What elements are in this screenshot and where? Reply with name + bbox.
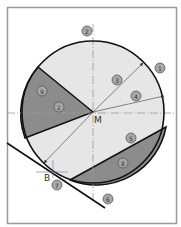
- badge-4: 4: [131, 91, 141, 101]
- point-label-m: M: [94, 115, 102, 125]
- badge-2-top: 2: [82, 26, 92, 36]
- badge-3: 3: [112, 75, 122, 85]
- svg-text:1: 1: [158, 65, 162, 72]
- badge-8: 8: [118, 158, 128, 168]
- svg-text:2: 2: [85, 28, 89, 35]
- svg-text:7: 7: [55, 182, 59, 189]
- badge-6: 6: [103, 194, 113, 204]
- svg-text:6: 6: [106, 196, 110, 203]
- svg-text:4: 4: [134, 93, 138, 100]
- circle-geometry-diagram: M B 1 2 3 4 9 2 5 8 7 6: [0, 0, 181, 227]
- point-label-b: B: [44, 173, 50, 183]
- svg-text:3: 3: [115, 77, 119, 84]
- badge-7: 7: [52, 180, 62, 190]
- badge-9: 9: [37, 86, 47, 96]
- svg-text:9: 9: [40, 88, 44, 95]
- svg-text:8: 8: [121, 160, 125, 167]
- badge-5: 5: [126, 133, 136, 143]
- svg-text:2: 2: [57, 104, 61, 111]
- badge-2-left: 2: [54, 102, 64, 112]
- badge-1: 1: [155, 63, 165, 73]
- svg-text:5: 5: [129, 135, 133, 142]
